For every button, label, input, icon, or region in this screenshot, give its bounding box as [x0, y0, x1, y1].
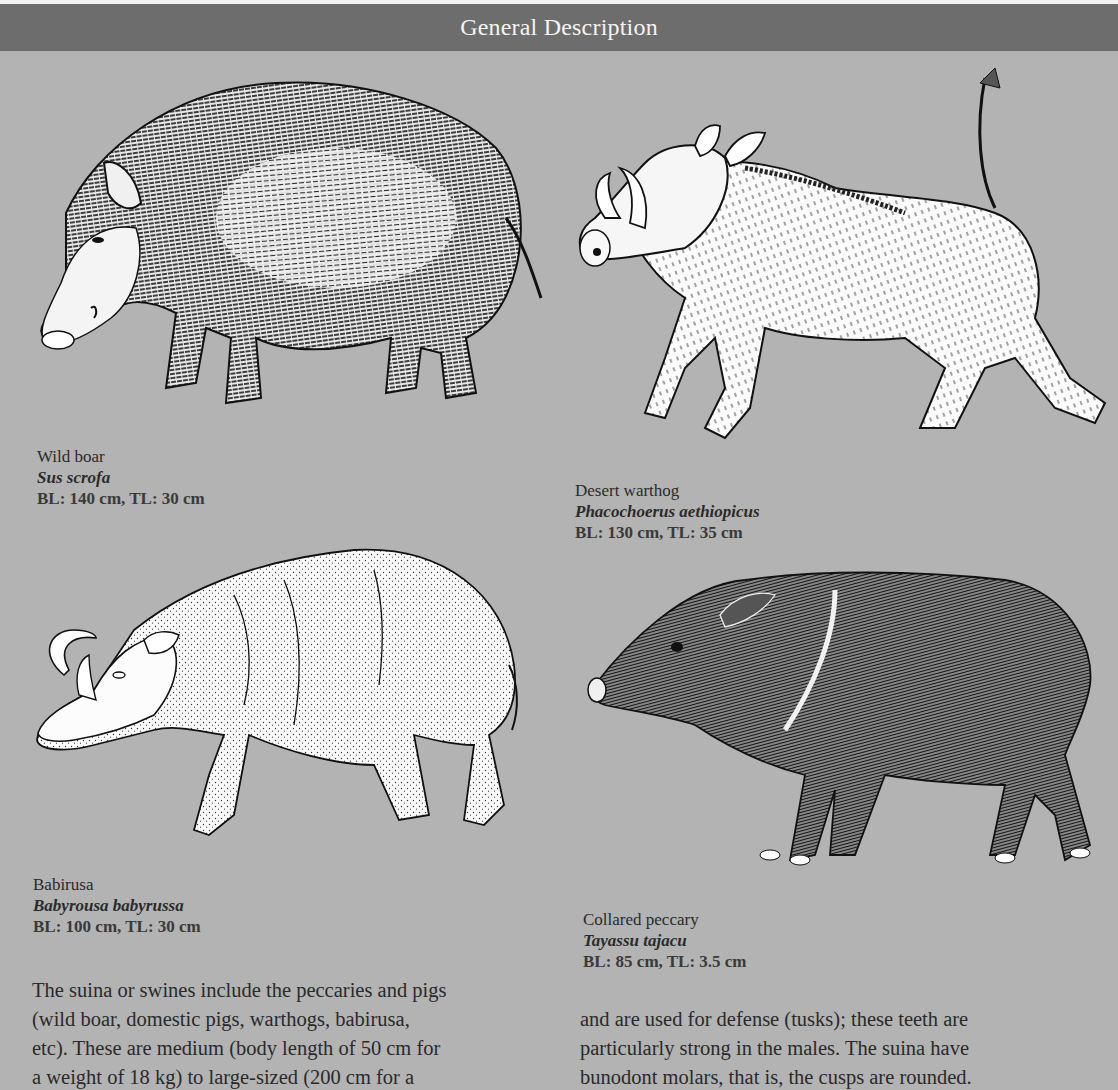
caption-desert-warthog: Desert warthog Phacochoerus aethiopicus … [575, 480, 760, 543]
section-header: General Description [0, 4, 1118, 51]
body-dimensions: BL: 85 cm, TL: 3.5 cm [583, 951, 747, 972]
section-title: General Description [460, 14, 658, 41]
paragraph-line: etc). These are medium (body length of 5… [32, 1034, 446, 1063]
common-name: Collared peccary [583, 909, 747, 930]
desert-warthog-illustration [575, 68, 1115, 453]
common-name: Desert warthog [575, 480, 760, 501]
body-dimensions: BL: 140 cm, TL: 30 cm [37, 488, 205, 509]
collared-peccary-illustration [585, 555, 1105, 875]
common-name: Wild boar [37, 446, 205, 467]
wild-boar-illustration [36, 68, 556, 413]
caption-babirusa: Babirusa Babyrousa babyrussa BL: 100 cm,… [33, 874, 201, 937]
caption-wild-boar: Wild boar Sus scrofa BL: 140 cm, TL: 30 … [37, 446, 205, 509]
scientific-name: Sus scrofa [37, 467, 205, 488]
paragraph-line: bunodont molars, that is, the cusps are … [580, 1063, 972, 1090]
paragraph-line: and are used for defense (tusks); these … [580, 1005, 972, 1034]
scientific-name: Tayassu tajacu [583, 930, 747, 951]
babirusa-illustration [34, 535, 526, 845]
body-dimensions: BL: 130 cm, TL: 35 cm [575, 522, 760, 543]
body-text-left-column: The suina or swines include the peccarie… [32, 976, 446, 1090]
paragraph-line: (wild boar, domestic pigs, warthogs, bab… [32, 1005, 446, 1034]
body-dimensions: BL: 100 cm, TL: 30 cm [33, 916, 201, 937]
body-text-right-column: and are used for defense (tusks); these … [580, 1005, 972, 1090]
caption-collared-peccary: Collared peccary Tayassu tajacu BL: 85 c… [583, 909, 747, 972]
scientific-name: Babyrousa babyrussa [33, 895, 201, 916]
scientific-name: Phacochoerus aethiopicus [575, 501, 760, 522]
paragraph-line: The suina or swines include the peccarie… [32, 976, 446, 1005]
common-name: Babirusa [33, 874, 201, 895]
paragraph-line: particularly strong in the males. The su… [580, 1034, 972, 1063]
paragraph-line: a weight of 18 kg) to large-sized (200 c… [32, 1063, 446, 1090]
